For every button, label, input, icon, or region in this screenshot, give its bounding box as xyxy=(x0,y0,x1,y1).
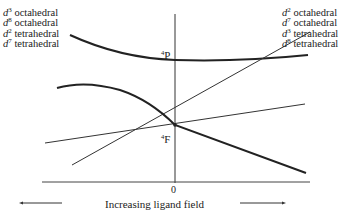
electron-count: 2 xyxy=(8,27,12,35)
geometry: tetrahedral xyxy=(293,38,338,49)
left-arrowhead-icon xyxy=(19,202,23,205)
electron-count: 7 xyxy=(287,16,291,24)
geometry: tetrahedral xyxy=(14,38,59,49)
term-letter: F xyxy=(164,133,170,145)
electron-count: 3 xyxy=(287,27,291,35)
geometry: octahedral xyxy=(293,17,337,28)
p-term-curve xyxy=(70,35,308,60)
electron-count: 8 xyxy=(8,16,12,24)
right-label: d8 tetrahedral xyxy=(282,39,338,49)
electron-count: 7 xyxy=(8,37,12,45)
electron-count: 3 xyxy=(8,6,12,14)
term-4f-label: 4F xyxy=(161,133,170,145)
origin-label: 0 xyxy=(171,184,176,195)
steep-line xyxy=(72,32,310,165)
term-4p-label: 4P xyxy=(161,49,170,61)
term-letter: P xyxy=(164,49,170,61)
x-axis-caption: Increasing ligand field xyxy=(105,198,204,210)
left-labels: d3 octahedral d8 octahedral d2 tetrahedr… xyxy=(3,8,59,50)
right-arrowhead-icon xyxy=(282,202,286,205)
electron-count: 2 xyxy=(287,6,291,14)
electron-count: 8 xyxy=(287,37,291,45)
geometry: octahedral xyxy=(14,17,58,28)
left-label: d7 tetrahedral xyxy=(3,39,59,49)
right-labels: d2 octahedral d7 octahedral d3 tetrahedr… xyxy=(282,8,338,50)
lower-curve xyxy=(57,84,306,173)
intersection-point xyxy=(173,123,177,127)
